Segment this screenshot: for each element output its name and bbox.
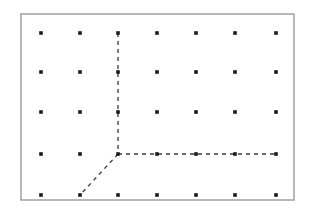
peg-dot <box>155 70 159 74</box>
peg-dot <box>116 193 120 197</box>
peg-dot <box>78 31 82 35</box>
peg-dot <box>155 110 159 114</box>
peg-dot <box>155 193 159 197</box>
peg-dot <box>194 193 198 197</box>
geoboard-figure <box>0 0 311 213</box>
peg-dot <box>274 110 278 114</box>
peg-dot <box>78 70 82 74</box>
peg-dot <box>274 70 278 74</box>
peg-dot <box>155 31 159 35</box>
peg-dot <box>39 70 43 74</box>
peg-dot <box>155 152 159 156</box>
peg-dot <box>194 152 198 156</box>
peg-dot <box>233 152 237 156</box>
peg-dot <box>39 31 43 35</box>
peg-dot <box>116 31 120 35</box>
peg-dot <box>194 70 198 74</box>
peg-dot <box>194 110 198 114</box>
peg-dot <box>233 31 237 35</box>
peg-dot <box>78 110 82 114</box>
peg-dot <box>194 31 198 35</box>
peg-dot <box>274 31 278 35</box>
peg-dot <box>78 193 82 197</box>
peg-dot <box>116 70 120 74</box>
peg-dot <box>39 193 43 197</box>
geoboard-frame <box>21 14 294 200</box>
peg-dot <box>233 70 237 74</box>
peg-dot <box>39 110 43 114</box>
peg-dot <box>39 152 43 156</box>
peg-dot <box>116 110 120 114</box>
peg-dot <box>233 193 237 197</box>
peg-dot <box>116 152 120 156</box>
peg-dot <box>274 193 278 197</box>
peg-dot <box>233 110 237 114</box>
peg-dot <box>274 152 278 156</box>
geoboard-canvas <box>0 0 311 213</box>
peg-dot <box>78 152 82 156</box>
